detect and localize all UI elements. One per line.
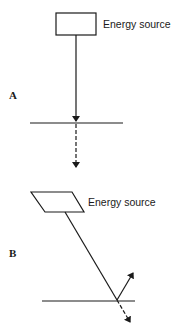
panel-label-a: A xyxy=(9,89,17,101)
energy-source-box-a xyxy=(56,13,96,35)
incident-ray-b xyxy=(65,212,117,300)
panel-a: Energy source A xyxy=(9,13,171,167)
panel-b: Energy source B xyxy=(9,192,156,322)
energy-incidence-diagram: Energy source A Energy source B xyxy=(0,0,177,336)
energy-source-label-b: Energy source xyxy=(88,196,156,208)
panel-label-b: B xyxy=(9,247,17,259)
reflected-arrow-b xyxy=(117,273,133,300)
transmitted-arrow-b xyxy=(117,300,130,322)
energy-source-label-a: Energy source xyxy=(103,18,171,30)
energy-source-box-b xyxy=(31,192,84,212)
